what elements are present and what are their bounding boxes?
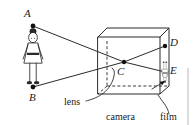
film-label: film [160,111,177,122]
image-left-shoe [165,62,167,63]
box-hidden-bottom-left-edge [98,86,107,94]
point-c-label: C [117,65,125,77]
standing-person [23,28,43,84]
image-belt [163,73,167,74]
left-shoe [27,81,33,84]
ray-c-to-d [124,46,165,62]
lens-label: lens [64,96,80,107]
point-a-label: A [23,7,31,19]
point-d-label: D [169,36,178,48]
ray-c-to-e [124,62,165,72]
ray-a-to-c [33,26,124,62]
head [29,32,38,42]
belt [27,53,40,55]
camera-label: camera [106,111,135,122]
point-d-dot [163,44,167,48]
point-e-label: E [169,64,177,76]
point-c-dot [122,60,126,64]
lens-leader-line [86,68,114,101]
inverted-person-image [161,62,168,83]
right-shoe [34,81,40,84]
diagram-canvas: C D E [0,0,195,125]
image-right-shoe [163,62,165,63]
camera-box [98,28,169,94]
light-rays [33,26,165,87]
point-b-dot [31,85,36,90]
point-b-label: B [29,91,36,103]
camera-ray-diagram: C D E [0,0,195,125]
box-top-face [98,28,169,37]
box-right-face-film [160,28,169,94]
lens-point-group: C [86,60,126,101]
point-a-dot [31,24,36,29]
ray-b-to-c [33,62,124,87]
